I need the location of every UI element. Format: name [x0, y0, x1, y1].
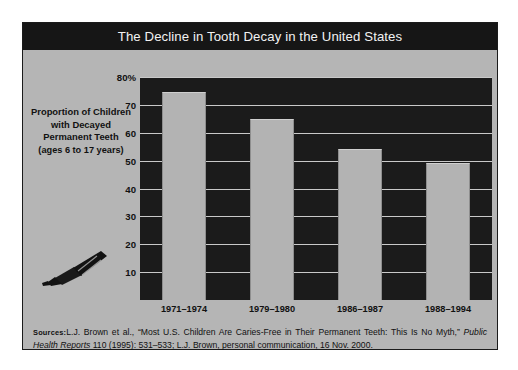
source-note: Sources:L.J. Brown et al., “Most U.S. Ch…: [33, 326, 487, 352]
source-text-part-1: L.J. Brown et al., “Most U.S. Children A…: [66, 327, 463, 337]
chart-title-bar: The Decline in Tooth Decay in the United…: [23, 23, 497, 50]
page-title: The Decline in Tooth Decay in the United…: [118, 29, 402, 44]
x-axis-tick-label: 1979–1980: [249, 304, 295, 314]
x-axis-tick-label: 1988–1994: [425, 304, 471, 314]
y-axis-tick-label: 30: [125, 211, 136, 222]
bar: [250, 119, 294, 300]
y-axis-tick-label: 70: [125, 99, 136, 110]
plot-area: [140, 77, 492, 300]
y-axis-tick-label: 60: [125, 127, 136, 138]
y-axis-tick-label: 20: [125, 239, 136, 250]
y-axis-tick-label: 10: [125, 267, 136, 278]
bar: [426, 163, 470, 300]
x-axis-ticks: 1971–19741979–19801986–19871988–1994: [140, 304, 492, 320]
source-text-part-2: 110 (1995): 531–533; L.J. Brown, persona…: [90, 340, 373, 350]
plot-canvas: [140, 77, 492, 300]
y-axis-tick-label: 40: [125, 183, 136, 194]
source-label: Sources:: [33, 328, 66, 337]
toothpaste-tube-icon: [37, 246, 111, 288]
bar: [338, 149, 382, 300]
y-axis-tick-label: 50: [125, 155, 136, 166]
x-axis-tick-label: 1971–1974: [161, 304, 207, 314]
y-axis-tick-label: 80%: [117, 72, 136, 83]
bar: [162, 92, 206, 300]
x-axis-tick-label: 1986–1987: [337, 304, 383, 314]
figure-panel: The Decline in Tooth Decay in the United…: [22, 22, 498, 350]
gridline: [140, 77, 492, 78]
y-axis-ticks: 1020304050607080%: [102, 77, 136, 300]
chart-body: Proportion of Children with Decayed Perm…: [23, 50, 497, 349]
